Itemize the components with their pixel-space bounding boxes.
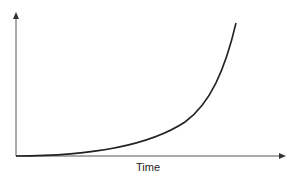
x-axis-arrow-icon [279,153,286,159]
y-axis-arrow-icon [13,12,19,19]
x-axis-label: Time [136,161,160,173]
growth-curve [16,23,236,156]
chart-canvas [0,0,295,179]
